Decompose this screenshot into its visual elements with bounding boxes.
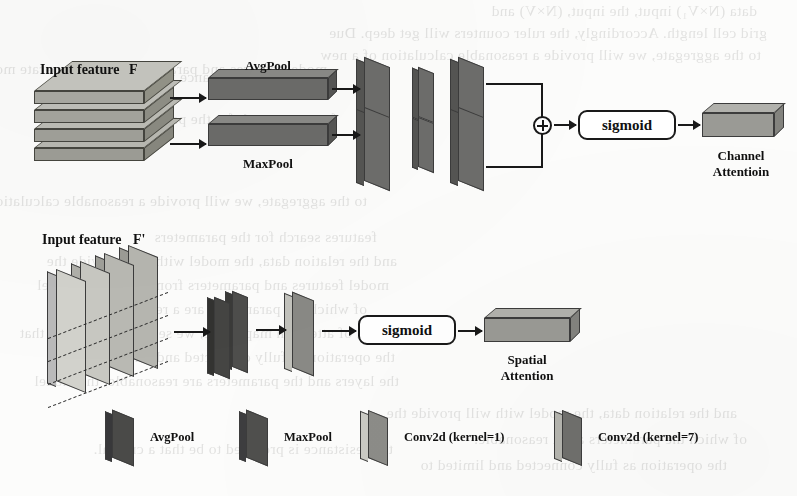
spatial-maxpool-plate [232, 294, 248, 370]
legend-label-conv2d-k1: Conv2d (kernel=1) [404, 430, 505, 445]
maxpool-label: MaxPool [208, 156, 328, 172]
channel-input-symbol: F [129, 62, 138, 77]
channel-sigmoid-box: sigmoid [578, 110, 676, 140]
spatial-conv-plate [292, 296, 314, 372]
channel-attention-bar [702, 113, 774, 137]
ghost-line: grid cell length. Accordingly, the ruler… [329, 24, 767, 42]
arrow-conv-to-sigmoid [322, 330, 356, 332]
mlp-plate-bottleneck [418, 70, 434, 120]
feature-sheet [34, 148, 144, 161]
spatial-attention-bar [484, 318, 570, 342]
arrow-avgpool-to-mlp [332, 88, 360, 90]
spatial-input-label: Input feature F' [42, 232, 145, 248]
light-plate-icon [368, 414, 388, 462]
arrow-sum-to-sigmoid [554, 124, 576, 126]
mlp-plate-out [458, 112, 484, 186]
arrow-pool-to-conv [256, 329, 286, 331]
arrow-f-to-maxpool [170, 143, 206, 145]
elementwise-sum-icon [533, 116, 552, 135]
ghost-line: to the aggregate, we will provide a reas… [0, 192, 367, 210]
arrow-sigmoid-to-channel-attention [678, 124, 700, 126]
mid-plate-icon [562, 414, 582, 462]
arrow-sigmoid-to-spatial-attention [458, 330, 482, 332]
legend-label-conv2d-k7: Conv2d (kernel=7) [598, 430, 699, 445]
feature-sheet [34, 91, 144, 104]
arrow-f-to-avgpool [170, 97, 206, 99]
spatial-avgpool-plate [214, 300, 230, 376]
figure-legend: AvgPool MaxPool Conv2d (kernel=1) Conv [0, 404, 797, 486]
channel-attention-label-line2: Attentioin [688, 164, 794, 180]
dark-plate-icon [112, 414, 134, 462]
channel-attention-label-line1: Channel [688, 148, 794, 164]
avgpool-bar [208, 78, 328, 100]
wire-top-to-sum [486, 83, 543, 85]
scanned-page: data (N×V₁) input, the input, (N×V) and … [0, 0, 797, 496]
wire-bottom-up [541, 132, 543, 168]
ghost-line: features search for the parameters [154, 228, 377, 246]
maxpool-bar [208, 124, 328, 146]
arrow-maxpool-to-mlp [332, 134, 360, 136]
spatial-attention-label-line2: Attention [472, 368, 582, 384]
feature-sheet [34, 110, 144, 123]
wire-top-down [541, 83, 543, 119]
dark-plate-icon [246, 414, 268, 462]
feature-sheet [34, 129, 144, 142]
spatial-sigmoid-box: sigmoid [358, 315, 456, 345]
mlp-plate-bottleneck [418, 120, 434, 170]
avgpool-label: AvgPool [208, 58, 328, 74]
legend-label-avgpool: AvgPool [150, 430, 194, 445]
legend-label-maxpool: MaxPool [284, 430, 332, 445]
spatial-attention-label: Spatial Attention [472, 352, 582, 384]
mlp-plate-in [364, 112, 390, 186]
channel-input-label: Input feature F [40, 62, 138, 78]
spatial-attention-label-line1: Spatial [472, 352, 582, 368]
channel-attention-label: Channel Attentioin [688, 148, 794, 180]
arrow-fprime-to-pool [174, 331, 210, 333]
spatial-input-symbol: F' [133, 232, 145, 247]
ghost-line: data (N×V₁) input, the input, (N×V) and [491, 2, 757, 20]
wire-bottom-to-sum [486, 166, 543, 168]
